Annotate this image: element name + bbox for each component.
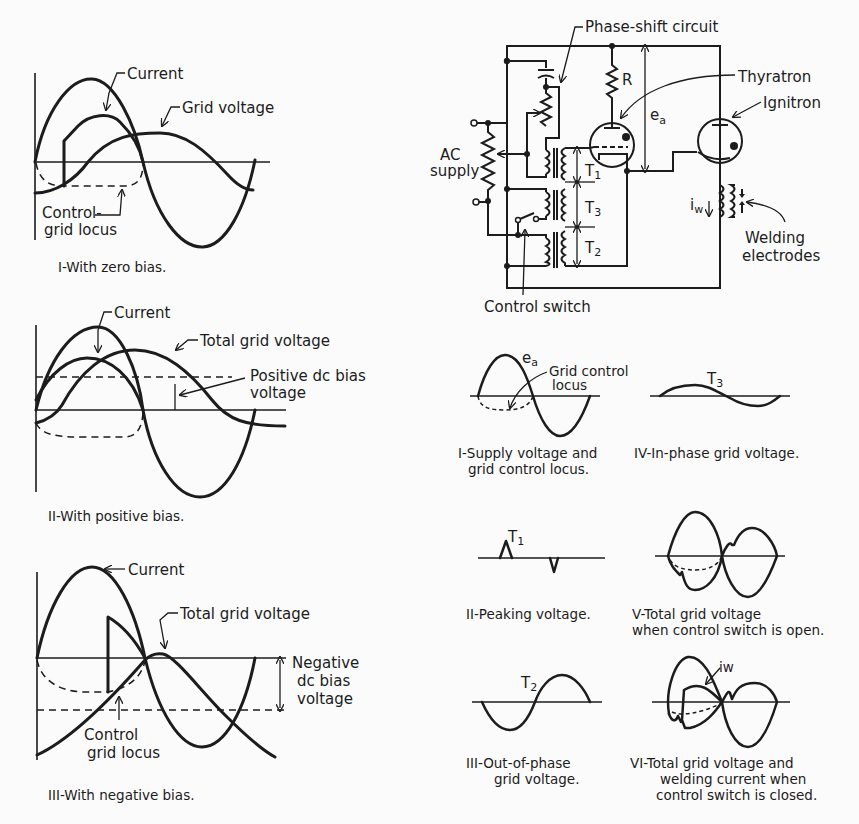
waveform-out-of-phase: T2 III-Out-of-phase grid voltage. — [466, 674, 602, 787]
t2-label: T2 — [520, 674, 537, 694]
grid-voltage-leader — [176, 340, 198, 350]
bias-label-1: Negative — [292, 654, 359, 672]
weld-secondary-coil — [731, 185, 742, 217]
thyratron-tube-icon — [590, 123, 634, 171]
welding-leader — [747, 202, 785, 222]
locus-label-2: grid locus — [44, 221, 117, 239]
caption-1: III-Out-of-phase — [466, 755, 571, 771]
control-switch-label: Control switch — [484, 298, 591, 316]
waveform-total-switch-open: V-Total grid voltage when control switch… — [632, 512, 824, 638]
t3-secondary-coil — [562, 189, 566, 221]
total-grid-voltage-curve — [37, 654, 275, 757]
waveform-supply-voltage: ea Grid control locus I-Supply voltage a… — [458, 349, 628, 477]
chart-positive-bias: Current Total grid voltage Positive dc b… — [36, 304, 366, 524]
total-grid-voltage-label: Total grid voltage — [179, 605, 310, 623]
figure: Current Grid voltage Control- grid locus… — [0, 0, 859, 824]
bias-label-2: dc bias — [297, 672, 350, 690]
bias-label-3: voltage — [297, 690, 353, 708]
phase-shift-label: Phase-shift circuit — [585, 18, 719, 36]
t3-label: T3 — [706, 370, 723, 390]
total-grid-curve-open — [668, 512, 777, 597]
t1-primary-coil — [527, 150, 550, 177]
welding-label-1: Welding — [745, 229, 805, 247]
grid-voltage-leader — [162, 107, 180, 126]
phase-shift-leader — [561, 27, 583, 82]
control-switch-icon — [516, 213, 547, 235]
t3-primary-coil — [546, 192, 550, 216]
t1-label: T1 — [584, 162, 601, 182]
waveform-total-switch-closed: iw VI-Total grid voltage and welding cur… — [630, 657, 817, 803]
chart-caption: II-With positive bias. — [48, 508, 184, 524]
locus-label-2: grid locus — [87, 744, 160, 762]
bias-label-2: voltage — [250, 384, 306, 402]
caption-2: grid control locus. — [468, 461, 589, 477]
control-grid-locus — [36, 163, 143, 186]
ac-potentiometer-icon — [482, 123, 494, 201]
current-label: Current — [127, 65, 183, 83]
iw-label: iw — [690, 196, 703, 216]
t2-label: T2 — [584, 239, 601, 259]
variable-resistor-icon — [541, 87, 551, 126]
waveform-peaking: T1 II-Peaking voltage. — [466, 528, 605, 622]
caption-1: I-Supply voltage and — [458, 445, 597, 461]
current-label: Current — [114, 304, 170, 322]
locus-label-2: locus — [552, 377, 587, 393]
ignitron-leader — [733, 102, 761, 117]
ea-label: ea — [650, 106, 666, 127]
caption: II-Peaking voltage. — [466, 606, 591, 622]
chart-caption: I-With zero bias. — [58, 259, 166, 275]
bias-leader — [180, 378, 245, 395]
current-label: Current — [128, 561, 184, 579]
caption-2: welding current when — [660, 771, 806, 787]
t1-secondary-coil — [562, 148, 566, 180]
bias-label-1: Positive dc bias — [250, 367, 366, 385]
t2-primary-coil — [546, 238, 550, 266]
ac-terminal-top — [471, 120, 477, 126]
caption-1: VI-Total grid voltage and — [630, 755, 794, 771]
locus-label-1: Control- — [42, 204, 102, 222]
caption: IV-In-phase grid voltage. — [634, 445, 799, 461]
caption-2: when control switch is open. — [632, 622, 824, 638]
chart-zero-bias: Current Grid voltage Control- grid locus… — [35, 65, 274, 275]
thyratron-leader — [621, 75, 735, 118]
control-switch-leader — [523, 230, 525, 295]
welding-control-circuit: Phase-shift circuit R Thyratron Ignitron… — [430, 18, 821, 316]
caption-1: V-Total grid voltage — [632, 606, 761, 622]
control-locus-open — [670, 556, 722, 570]
grid-voltage-leader — [160, 613, 178, 648]
grid-voltage-label: Grid voltage — [182, 99, 274, 117]
ac-terminal-bottom — [473, 199, 479, 205]
waveform-in-phase: T3 IV-In-phase grid voltage. — [634, 370, 799, 461]
chart-negative-bias: Current Total grid voltage Negative dc b… — [37, 561, 359, 803]
t3-label: T3 — [584, 199, 601, 219]
locus-label-1: Control — [84, 726, 138, 744]
ac-supply-label-2: supply — [430, 162, 480, 180]
caption-2: grid voltage. — [494, 771, 579, 787]
welding-label-2: electrodes — [742, 247, 821, 265]
thyratron-label: Thyratron — [737, 68, 811, 86]
grid-control-locus — [478, 396, 533, 410]
t1-peak-negative — [550, 558, 558, 572]
resistor-r-icon — [607, 46, 617, 128]
ea-label: ea — [522, 349, 538, 369]
total-grid-voltage-label: Total grid voltage — [199, 332, 330, 350]
chart-caption: III-With negative bias. — [48, 787, 194, 803]
capacitor-icon — [538, 70, 554, 78]
resistor-label: R — [622, 71, 632, 89]
welding-electrode-icon — [739, 194, 745, 198]
caption-3: control switch is closed. — [656, 787, 817, 803]
t2-secondary-coil — [562, 231, 566, 266]
ignitron-label: Ignitron — [763, 94, 821, 112]
t1-label: T1 — [507, 528, 524, 548]
iw-label: iw — [719, 659, 734, 675]
